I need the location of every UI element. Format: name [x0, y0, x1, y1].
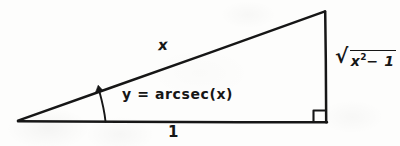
- right-angle-marker-icon: [314, 111, 326, 123]
- radicand-base: x: [351, 53, 361, 69]
- base-label: 1: [168, 123, 179, 141]
- triangle-hypotenuse-line: [18, 11, 325, 120]
- diagram-canvas: x 1 √ x2− 1 y = arcsec(x): [0, 0, 400, 146]
- triangle-opposite-line: [325, 12, 326, 123]
- hypotenuse-label: x: [158, 36, 169, 55]
- radical-sign-icon: √: [335, 49, 349, 63]
- radicand-expression: x2− 1: [350, 50, 397, 69]
- triangle-figure: [0, 0, 400, 146]
- triangle-outline: [18, 11, 327, 122]
- radicand-rest: − 1: [367, 53, 395, 69]
- opposite-side-label: √ x2− 1: [335, 50, 396, 69]
- angle-equation-label: y = arcsec(x): [122, 86, 233, 102]
